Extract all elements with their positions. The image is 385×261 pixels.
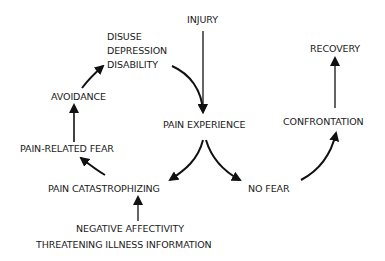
node-pain-catastrophizing: PAIN CATASTROPHIZING bbox=[48, 182, 160, 195]
node-pain-related-fear: PAIN-RELATED FEAR bbox=[20, 142, 114, 155]
arrow-disability-to-pain-experience bbox=[172, 66, 203, 112]
arrow-pain-experience-to-catastrophizing bbox=[170, 140, 203, 180]
arrow-catastrophizing-to-fear bbox=[81, 158, 105, 175]
node-avoidance: AVOIDANCE bbox=[51, 90, 106, 103]
node-disuse: DISUSE bbox=[107, 30, 142, 43]
fear-avoidance-diagram: INJURY DISUSE DEPRESSION DISABILITY AVOI… bbox=[0, 0, 385, 261]
node-depression: DEPRESSION bbox=[107, 44, 167, 57]
arrow-no-fear-to-confrontation bbox=[301, 133, 336, 180]
arrow-pain-experience-to-no-fear bbox=[206, 140, 240, 180]
node-no-fear: NO FEAR bbox=[248, 182, 289, 195]
node-negative-affectivity: NEGATIVE AFFECTIVITY bbox=[76, 222, 184, 235]
node-disability: DISABILITY bbox=[107, 58, 158, 71]
node-threatening-illness-information: THREATENING ILLNESS INFORMATION bbox=[36, 238, 212, 251]
node-recovery: RECOVERY bbox=[310, 42, 360, 55]
node-pain-experience: PAIN EXPERIENCE bbox=[163, 118, 245, 131]
node-injury: INJURY bbox=[187, 13, 218, 26]
node-confrontation: CONFRONTATION bbox=[283, 115, 364, 128]
arrow-avoidance-to-disability bbox=[82, 66, 103, 88]
